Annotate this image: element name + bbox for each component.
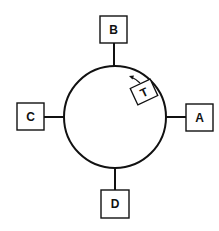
diagram-canvas: ABCD T [0,0,219,231]
node-a: A [166,104,213,131]
node-b-label: B [109,23,118,37]
node-d-label: D [111,197,120,211]
node-c-label: C [26,110,35,124]
node-b: B [100,16,127,66]
node-d: D [101,168,129,218]
node-c: C [17,103,64,130]
token-direction-arrow [129,76,140,84]
token-ring-diagram: ABCD T [0,0,219,231]
node-a-label: A [195,111,204,125]
